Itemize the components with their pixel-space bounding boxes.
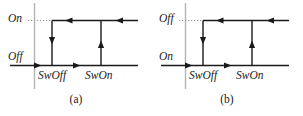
bottom-middle-arrow-b [224, 62, 232, 68]
figure-root: On Off SwOff SwOn (a) [0, 0, 303, 116]
diagram-panel-a: On Off SwOff SwOn (a) [0, 0, 152, 116]
panel-caption-b: (b) [151, 94, 303, 106]
right-transition-arrow-b [249, 41, 255, 49]
top-right-arrow-b [267, 17, 275, 23]
bottom-middle-arrow-a [73, 62, 81, 68]
lower-level-label-a: Off [8, 51, 23, 63]
left-transition-arrow-a [49, 37, 55, 45]
left-threshold-label-a: SwOff [38, 70, 66, 82]
right-threshold-label-b: SwOn [236, 70, 263, 82]
top-right-arrow-a [116, 17, 124, 23]
upper-level-label-b: Off [159, 13, 174, 25]
x-axis-origin-arrow-a [34, 62, 42, 68]
left-threshold-label-b: SwOff [189, 70, 217, 82]
right-threshold-label-a: SwOn [85, 70, 112, 82]
panel-caption-a: (a) [0, 94, 152, 106]
lower-level-label-b: On [159, 51, 173, 63]
upper-level-label-a: On [8, 13, 22, 25]
right-transition-arrow-a [98, 41, 104, 49]
left-transition-arrow-b [200, 37, 206, 45]
diagram-panel-b: Off On SwOff SwOn (b) [151, 0, 303, 116]
x-axis-origin-arrow-b [185, 62, 193, 68]
top-middle-arrow-a [65, 17, 73, 23]
top-middle-arrow-b [216, 17, 224, 23]
